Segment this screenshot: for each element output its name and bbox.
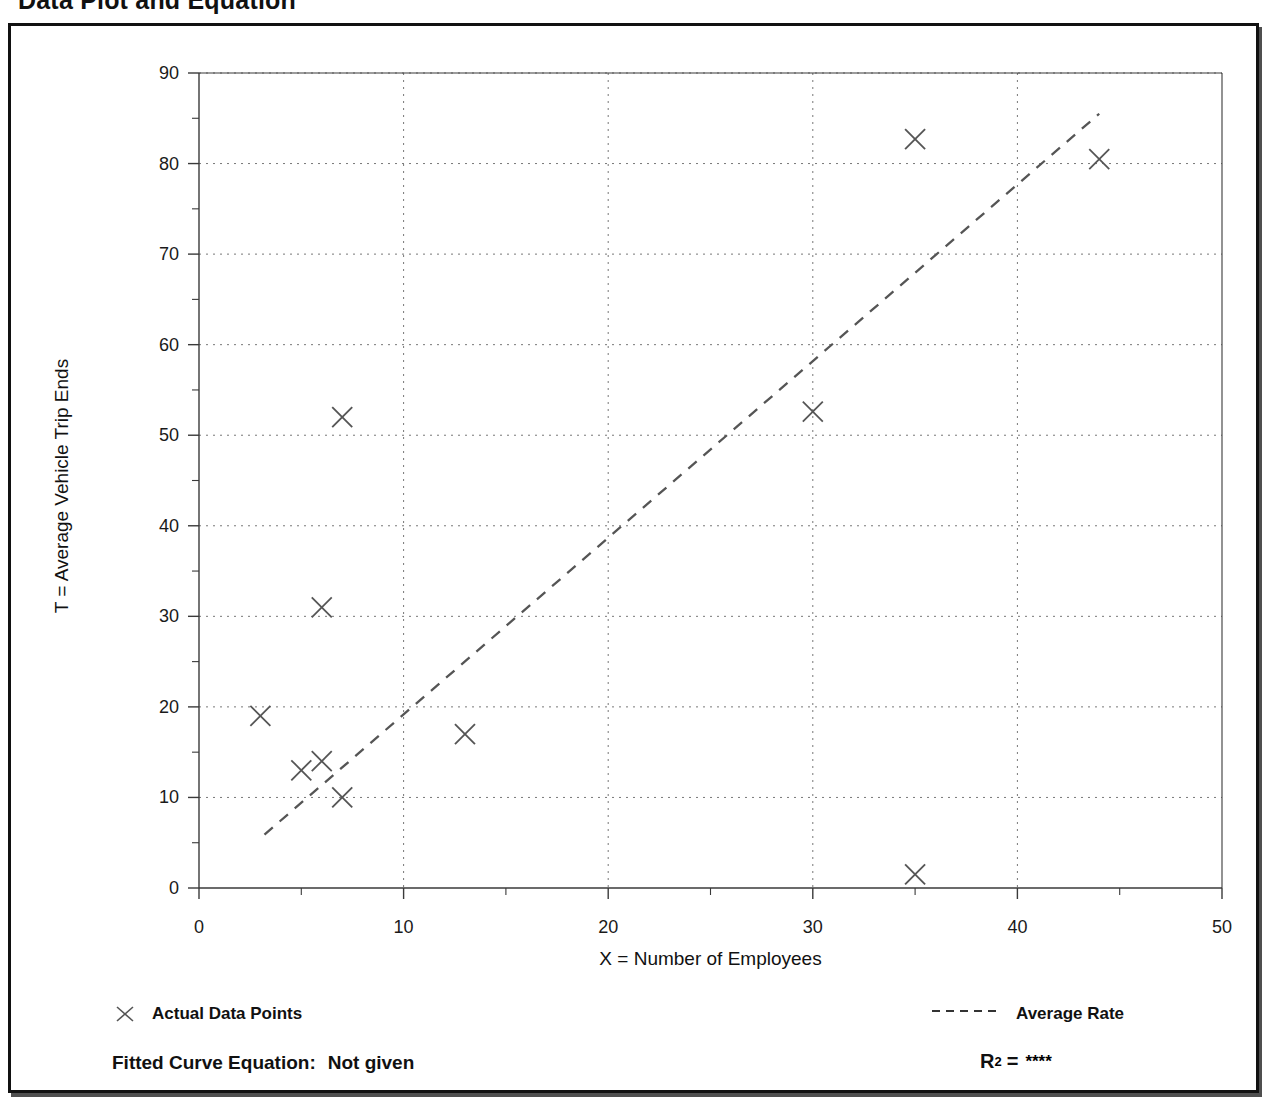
r-squared-equals: = xyxy=(1007,1050,1019,1073)
y-axis-title: T = Average Vehicle Trip Ends xyxy=(51,166,73,806)
legend-item-actual-data-points: Actual Data Points xyxy=(112,1003,302,1025)
x-marker-icon xyxy=(112,1003,138,1025)
x-axis-title: X = Number of Employees xyxy=(199,948,1222,970)
fitted-curve-equation-value: Not given xyxy=(328,1052,415,1074)
r-squared-exponent: 2 xyxy=(994,1054,1001,1069)
page-title: Data Plot and Equation xyxy=(18,0,296,15)
legend-label-average-rate: Average Rate xyxy=(1016,1004,1124,1024)
r-squared-base: R xyxy=(980,1050,994,1073)
figure-frame xyxy=(8,23,1259,1093)
dashed-line-icon xyxy=(930,1003,1002,1025)
r-squared-value: **** xyxy=(1025,1052,1051,1072)
legend-label-actual-data-points: Actual Data Points xyxy=(152,1004,302,1024)
fitted-curve-equation-label: Fitted Curve Equation: xyxy=(112,1052,316,1074)
fitted-curve-equation: Fitted Curve Equation: Not given xyxy=(112,1052,414,1074)
legend-item-average-rate: Average Rate xyxy=(930,1003,1124,1025)
r-squared-readout: R 2 = **** xyxy=(980,1050,1052,1073)
